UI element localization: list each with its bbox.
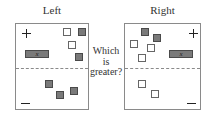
plus-sign-icon-vertical bbox=[26, 29, 27, 38]
positive-unit-tile bbox=[63, 28, 71, 36]
x-tile: x bbox=[169, 50, 193, 58]
minus-sign-icon bbox=[21, 103, 30, 104]
negative-unit-tile bbox=[141, 28, 149, 36]
right-panel: x bbox=[124, 23, 201, 110]
region-divider bbox=[125, 68, 200, 69]
question-line-1: Which bbox=[88, 46, 124, 57]
left-panel-title: Left bbox=[15, 3, 89, 17]
negative-unit-tile bbox=[45, 80, 53, 88]
minus-sign-icon bbox=[187, 103, 196, 104]
right-panel-title: Right bbox=[124, 3, 201, 17]
positive-unit-tile bbox=[68, 41, 76, 49]
positive-unit-tile bbox=[130, 40, 138, 48]
positive-unit-tile bbox=[138, 80, 146, 88]
x-tile: x bbox=[25, 50, 49, 58]
positive-unit-tile bbox=[151, 90, 159, 98]
positive-unit-tile bbox=[147, 44, 155, 52]
left-panel: x bbox=[15, 23, 89, 110]
negative-unit-tile bbox=[56, 91, 64, 99]
region-divider bbox=[16, 68, 88, 69]
negative-unit-tile bbox=[153, 34, 161, 42]
negative-unit-tile bbox=[75, 53, 83, 61]
negative-unit-tile bbox=[70, 87, 78, 95]
plus-sign-icon-vertical bbox=[193, 29, 194, 38]
question-line-3: greater? bbox=[88, 67, 124, 78]
positive-unit-tile bbox=[138, 54, 146, 62]
negative-unit-tile bbox=[78, 28, 86, 36]
question-text: Which is greater? bbox=[88, 46, 124, 78]
